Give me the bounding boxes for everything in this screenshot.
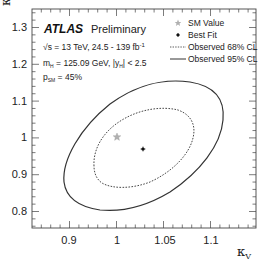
- legend-label: Observed 68% CL: [188, 42, 258, 52]
- p-sm-text: pSM = 45%: [43, 72, 82, 83]
- y-tick-label: 1: [21, 131, 27, 143]
- legend-item-sm-value: SM Value: [175, 18, 225, 28]
- x-axis-title: κV: [237, 244, 251, 260]
- mass-rapidity-text: mH = 125.09 GeV, |yH| < 2.5: [43, 58, 147, 69]
- y-tick-label: 1.3: [12, 21, 27, 33]
- legend-item-best-fit: Best Fit: [176, 30, 217, 40]
- legend: SM Value Best Fit Observed 68% CL Observ…: [170, 18, 258, 64]
- x-tick-label: 1.05: [154, 234, 175, 246]
- x-tick-label: 1: [114, 234, 120, 246]
- y-axis-title: κF: [0, 0, 15, 6]
- best-fit-marker-icon: [176, 33, 180, 37]
- atlas-label: ATLAS: [43, 22, 83, 36]
- x-tick-label: 1.1: [203, 234, 218, 246]
- best-fit-marker: [141, 147, 146, 152]
- legend-item-68cl: Observed 68% CL: [170, 42, 258, 52]
- x-tick-label: 0.9: [61, 234, 76, 246]
- atlas-label-block: ATLAS Preliminary √s = 13 TeV, 24.5 - 13…: [43, 22, 147, 83]
- sm-value-star-marker: [113, 133, 121, 140]
- x-axis-tick-labels: 0.9 1 1.05 1.1: [61, 234, 218, 246]
- legend-label: Best Fit: [188, 30, 217, 40]
- y-tick-label: 0.8: [12, 205, 27, 217]
- y-tick-label: 1.2: [12, 58, 27, 70]
- y-tick-label: 1.1: [12, 95, 27, 107]
- y-tick-label: 0.9: [12, 168, 27, 180]
- energy-lumi-text: √s = 13 TeV, 24.5 - 139 fb-1: [43, 42, 146, 52]
- legend-label: SM Value: [188, 18, 224, 28]
- kappa-contour-chart: 1.3 1.2 1.1 1 0.9 0.8 0.9 1 1.05 1.1 κV …: [0, 0, 260, 260]
- preliminary-label: Preliminary: [91, 23, 147, 35]
- legend-item-95cl: Observed 95% CL: [170, 54, 258, 64]
- observed-95cl-contour: [64, 81, 223, 210]
- y-axis-tick-labels: 1.3 1.2 1.1 1 0.9 0.8: [12, 21, 27, 217]
- sm-value-star-icon: [175, 20, 182, 26]
- legend-label: Observed 95% CL: [188, 54, 258, 64]
